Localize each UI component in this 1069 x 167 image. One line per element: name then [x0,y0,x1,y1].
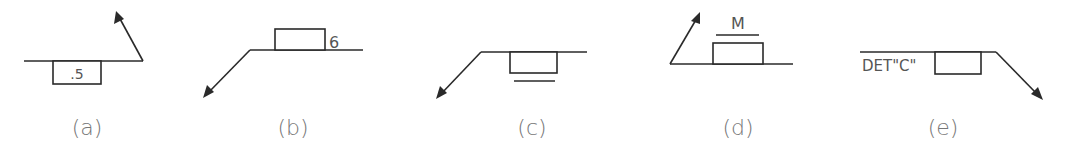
arrowhead-icon [203,85,214,98]
symbol-box [935,52,981,74]
caption: (e) [928,115,959,140]
panel-b: 6 (b) [203,29,363,140]
symbol-box [275,29,325,50]
arrow-line [119,17,143,61]
arrow-line [670,18,697,64]
symbol-box [510,52,557,73]
caption: (a) [72,115,103,140]
top-text: M [731,14,745,33]
side-text: DET"C" [862,57,916,75]
panel-a: .5 (a) [24,11,143,140]
arrowhead-icon [436,86,447,99]
arrow-line [441,52,481,94]
panel-e: DET"C" (e) [860,52,1043,140]
panel-d: M (d) [670,12,793,140]
arrow-line [208,50,250,93]
caption: (b) [277,115,308,140]
panel-c: (c) [436,52,587,140]
caption: (c) [517,115,546,140]
arrowhead-icon [691,12,700,24]
weld-symbol-figure: .5 (a) 6 (b) (c) M (d) DET"C" [0,0,1069,167]
box-text: .5 [70,66,83,82]
side-text: 6 [329,33,339,52]
symbol-box [713,43,763,64]
caption: (d) [722,115,753,140]
arrow-line [996,52,1038,95]
